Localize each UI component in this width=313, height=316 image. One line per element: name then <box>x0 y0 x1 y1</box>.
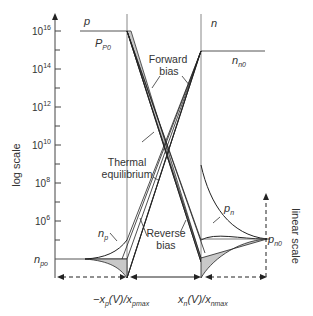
y-axis <box>52 13 61 278</box>
np-curves <box>85 240 127 278</box>
forward-bias-label-2: bias <box>159 65 178 77</box>
xn-label: xn(V)/xnmax <box>177 293 228 307</box>
pn-curves <box>201 165 270 278</box>
depletion-width-arrows <box>57 274 267 280</box>
pn-junction-diagram: 1016 1014 1012 1010 108 106 npo log scal… <box>0 0 313 316</box>
tick-1e10: 1010 <box>32 138 51 151</box>
thermal-label-2: equilibrium <box>102 168 153 180</box>
tick-1e16: 1016 <box>32 24 51 37</box>
reverse-bias-label-2: bias <box>156 239 175 251</box>
n-region-label: n <box>211 17 217 29</box>
y-tick-labels: 1016 1014 1012 1010 108 106 npo <box>32 24 51 268</box>
tick-1e12: 1012 <box>32 100 51 113</box>
pp0-label: PP0 <box>95 37 111 51</box>
tick-1e6: 106 <box>35 214 50 227</box>
log-scale-label: log scale <box>10 143 22 186</box>
np-label: np <box>98 227 108 242</box>
tick-1e14: 1014 <box>32 62 51 75</box>
thermal-label-1: Thermal <box>108 156 147 168</box>
pn-label: pn <box>223 202 234 216</box>
pn0-label: pn0 <box>267 233 282 247</box>
xp-label: −xp(V)/xpmax <box>93 293 150 308</box>
p-region-label: p <box>83 15 90 27</box>
npo-label: npo <box>34 253 48 268</box>
linear-scale-label: linear scale <box>290 208 302 264</box>
nn0-label: nn0 <box>232 54 246 68</box>
forward-bias-label-1: Forward <box>149 53 188 65</box>
reverse-bias-label-1: Reverse <box>146 227 185 239</box>
tick-1e8: 108 <box>35 176 50 189</box>
